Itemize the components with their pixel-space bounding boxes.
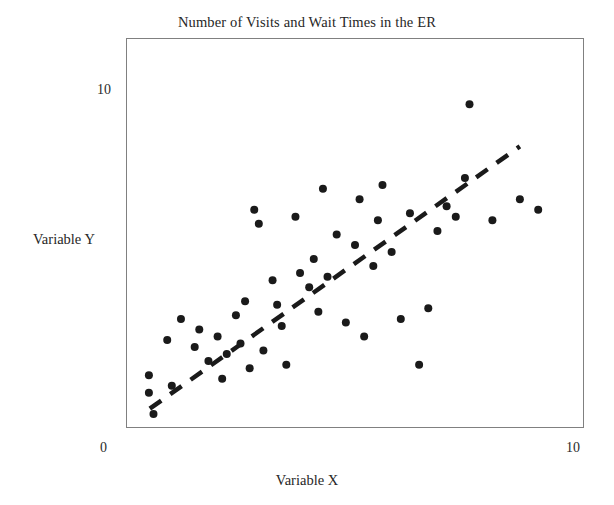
scatter-point [223,350,231,358]
scatter-point [282,361,290,369]
scatter-point [163,336,171,344]
scatter-point [351,241,359,249]
scatter-point [204,357,212,365]
scatter-point [145,371,153,379]
scatter-point [269,276,277,284]
scatter-point [314,308,322,316]
scatter-point [273,301,281,309]
scatter-point [145,389,153,397]
scatter-point [305,283,313,291]
scatter-point [443,202,451,210]
x-axis-title: Variable X [0,472,614,489]
scatter-point [232,311,240,319]
trend-line [150,146,520,408]
scatter-point [374,216,382,224]
scatter-point [195,325,203,333]
scatter-point [241,297,249,305]
scatter-point [452,213,460,221]
scatter-point [296,269,304,277]
scatter-point [246,364,254,372]
scatter-point [250,206,258,214]
scatter-point [324,273,332,281]
scatter-point [369,262,377,270]
scatter-point [461,174,469,182]
scatter-point [406,209,414,217]
scatter-point [278,322,286,330]
y-axis-tick-max: 10 [97,82,111,98]
y-axis-tick-min: 0 [100,440,107,456]
scatter-point [214,332,222,340]
scatter-point [356,195,364,203]
scatter-point [168,382,176,390]
scatter-point [191,343,199,351]
scatter-point [360,332,368,340]
scatter-point [388,248,396,256]
scatter-point [291,213,299,221]
scatter-point [310,255,318,263]
y-axis-title: Variable Y [33,231,95,248]
scatter-point [149,410,157,418]
scatter-point [534,206,542,214]
scatter-point [255,220,263,228]
scatter-point [237,340,245,348]
x-axis-tick-max: 10 [566,440,580,456]
scatter-point [466,100,474,108]
scatter-point [259,347,267,355]
scatter-point [378,181,386,189]
scatter-point [218,375,226,383]
scatter-point [516,195,524,203]
plot-canvas [126,38,584,428]
scatter-point [342,318,350,326]
scatter-point [415,361,423,369]
scatter-plot-figure: Number of Visits and Wait Times in the E… [0,0,614,505]
scatter-point [319,185,327,193]
scatter-point [333,230,341,238]
chart-title: Number of Visits and Wait Times in the E… [0,14,614,31]
scatter-point [397,315,405,323]
scatter-point [488,216,496,224]
scatter-point [433,227,441,235]
scatter-point [424,304,432,312]
scatter-point [177,315,185,323]
